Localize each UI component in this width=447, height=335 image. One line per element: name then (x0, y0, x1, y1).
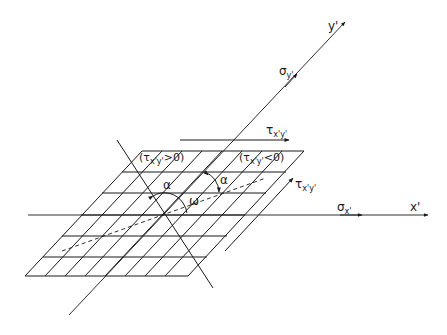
region-negative-label: (τx'y'<0) (239, 152, 284, 168)
sigma-x-symbol: σ (337, 200, 345, 214)
sigma-y-label: σy' (279, 65, 294, 82)
region-positive-label: (τx'y'>0) (139, 152, 184, 168)
sigma-x-sub: x' (345, 207, 352, 216)
alpha-left-label: α (163, 179, 171, 191)
tau-right-label: τx'y' (295, 178, 316, 195)
tau-sub: x'y' (250, 157, 264, 166)
stress-diagram (0, 0, 447, 335)
tau-right-sub: x'y' (302, 184, 316, 193)
tau-symbol: τ (143, 151, 150, 164)
alpha-right-label: α (220, 174, 228, 186)
sigma-y-symbol: σ (279, 64, 287, 78)
tau-sub: x'y' (150, 157, 164, 166)
relation: >0) (164, 151, 185, 164)
x-axis-label: x' (410, 201, 420, 213)
relation: <0) (264, 151, 285, 164)
y-axis-label: y' (328, 20, 338, 32)
tau-top-sub: x'y' (273, 130, 287, 139)
y-axis (69, 22, 345, 315)
tau-top-label: τx'y' (266, 124, 287, 141)
sigma-y-sub: y' (287, 71, 294, 80)
omega-label: ω (189, 195, 199, 207)
tau-symbol: τ (243, 151, 250, 164)
sigma-x-label: σx' (337, 201, 352, 218)
